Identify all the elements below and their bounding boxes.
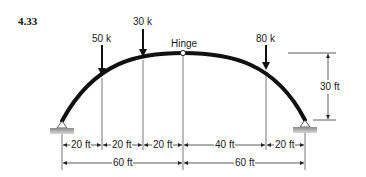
dim-half-left: 60 ft (112, 158, 133, 168)
hinge-label: Hinge (171, 39, 197, 49)
load-label-50k: 50 k (92, 34, 111, 44)
hinge-icon (180, 50, 185, 55)
rise-label: 30 ft (319, 82, 340, 92)
dim-segment-5: 20 ft (274, 140, 295, 150)
load-label-80k: 80 k (256, 34, 275, 44)
problem-number: 4.33 (18, 16, 37, 27)
dim-segment-1: 20 ft (70, 140, 91, 150)
arch-figure (0, 0, 366, 177)
dim-segment-3: 20 ft (152, 140, 173, 150)
dim-segment-2: 20 ft (111, 140, 132, 150)
left-support-icon (50, 121, 74, 134)
dim-half-right: 60 ft (234, 158, 255, 168)
right-support-icon (293, 120, 317, 133)
load-label-30k: 30 k (133, 17, 152, 27)
dim-segment-4: 40 ft (214, 140, 235, 150)
